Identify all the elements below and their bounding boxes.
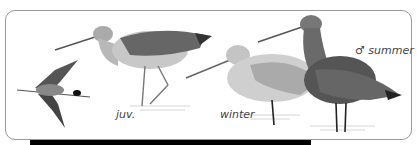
bird-illustration [0, 0, 417, 145]
flying-godwit [17, 60, 90, 128]
label-winter: winter [220, 108, 255, 121]
label-juvenile: juv. [116, 108, 135, 121]
label-summer-male: ♂ summer [355, 44, 414, 57]
black-bar [30, 140, 311, 145]
